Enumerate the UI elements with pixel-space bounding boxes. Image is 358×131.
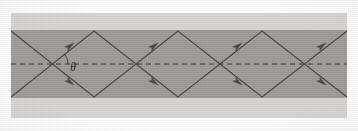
angle-label: θ [70, 61, 76, 73]
waveguide-ray-diagram: θ [0, 0, 358, 131]
core-region [11, 30, 347, 98]
diagram-canvas: θ [0, 0, 358, 131]
